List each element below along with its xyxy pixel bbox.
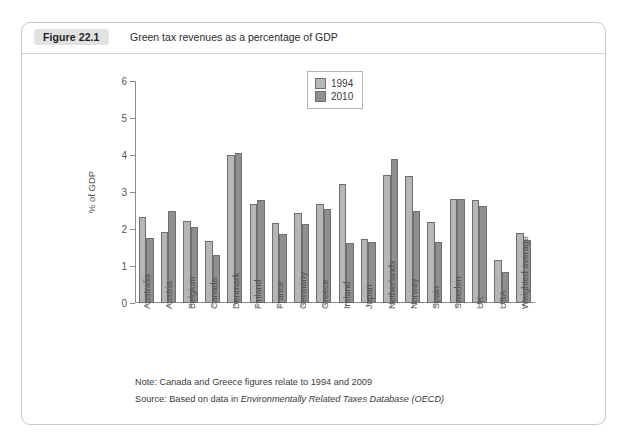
y-axis-tick-label: 4 — [121, 150, 127, 161]
bar-group: Japan — [357, 81, 379, 303]
x-axis-label: Greece — [320, 279, 330, 309]
figure-header: Figure 22.1 Green tax revenues as a perc… — [22, 23, 605, 54]
bar-group: Belgium — [179, 81, 201, 303]
x-axis-label: France — [275, 281, 285, 309]
bar-group: Spain — [424, 81, 446, 303]
legend-label-1994: 1994 — [331, 78, 353, 89]
legend-item: 1994 — [315, 77, 353, 90]
y-axis-tick-label: 5 — [121, 113, 127, 124]
x-axis-label: Netherlands — [387, 260, 397, 309]
x-axis-label: Sweden — [453, 276, 463, 309]
x-axis-label: Japan — [364, 284, 374, 309]
bar-group: Weighted average — [513, 81, 535, 303]
bar-group: Finland — [246, 81, 268, 303]
legend-swatch-2010-icon — [315, 91, 326, 102]
bar-group: UK — [468, 81, 490, 303]
plot-area: % of GDP 0123456 AustraliaAustriaBelgium… — [22, 53, 605, 425]
bar-group: Sweden — [446, 81, 468, 303]
bar-group: USA — [491, 81, 513, 303]
x-axis-label: Spain — [431, 286, 441, 309]
x-axis-label: Belgium — [187, 276, 197, 309]
legend-label-2010: 2010 — [331, 91, 353, 102]
y-axis-title: % of GDP — [86, 171, 97, 213]
figure-title: Green tax revenues as a percentage of GD… — [130, 31, 338, 43]
legend-swatch-1994-icon — [315, 78, 326, 89]
x-axis-label: Norway — [409, 278, 419, 309]
y-axis-tick-label: 3 — [121, 187, 127, 198]
x-axis-label: UK — [475, 296, 485, 309]
chart-legend: 1994 2010 — [307, 71, 363, 109]
bar-group: Australia — [135, 81, 157, 303]
bar-2010 — [479, 206, 487, 303]
bar-group: Greece — [313, 81, 335, 303]
bar-group: Austria — [157, 81, 179, 303]
x-axis-label: Weighted average — [520, 236, 530, 309]
x-axis-label: Ireland — [342, 281, 352, 309]
x-axis-label: USA — [498, 290, 508, 309]
bar-groups: AustraliaAustriaBelgiumCanadaDenmarkFinl… — [135, 81, 535, 303]
x-axis-label: Austria — [164, 281, 174, 309]
x-axis-label: Germany — [298, 272, 308, 309]
bar-group: Netherlands — [379, 81, 401, 303]
bar-group: Canada — [202, 81, 224, 303]
figure-screenshot: Figure 22.1 Green tax revenues as a perc… — [0, 0, 627, 447]
bar-group: Ireland — [335, 81, 357, 303]
bar-chart: % of GDP 0123456 AustraliaAustriaBelgium… — [135, 81, 535, 303]
bar-group: France — [268, 81, 290, 303]
x-axis-label: Australia — [142, 274, 152, 309]
bar-group: Germany — [291, 81, 313, 303]
source-text: Source: Based on data in Environmentally… — [135, 394, 575, 404]
note-text: Note: Canada and Greece figures relate t… — [135, 377, 575, 387]
y-axis-tick-label: 6 — [121, 76, 127, 87]
y-axis-tick-label: 0 — [121, 298, 127, 309]
bar-group: Denmark — [224, 81, 246, 303]
y-axis-tick-label: 2 — [121, 224, 127, 235]
y-axis-tick-label: 1 — [121, 261, 127, 272]
legend-item: 2010 — [315, 90, 353, 103]
source-database-name: Environmentally Related Taxes Database (… — [241, 394, 444, 404]
figure-number-badge: Figure 22.1 — [34, 29, 109, 45]
x-axis-label: Denmark — [231, 272, 241, 309]
y-axis-tick — [130, 303, 135, 304]
source-prefix: Source: Based on data in — [135, 394, 241, 404]
bar-group: Norway — [402, 81, 424, 303]
x-axis-label: Canada — [209, 277, 219, 309]
bar-1994 — [472, 200, 480, 303]
x-axis-label: Finland — [253, 279, 263, 309]
figure-panel: Figure 22.1 Green tax revenues as a perc… — [21, 22, 606, 425]
figure-notes: Note: Canada and Greece figures relate t… — [135, 377, 575, 411]
